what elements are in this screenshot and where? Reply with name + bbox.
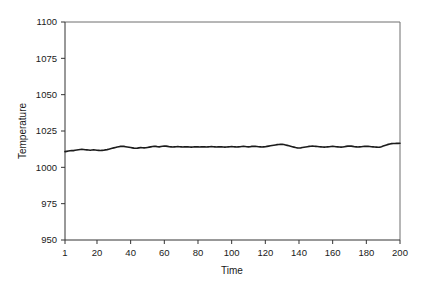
x-tick-label: 80 [193, 247, 204, 258]
y-axis-title: Temperature [17, 102, 28, 159]
y-axis-tick-labels: 95097510001025105010751100 [36, 16, 57, 245]
y-tick-label: 1100 [37, 16, 57, 27]
y-tick-label: 975 [41, 198, 57, 209]
x-tick-label: 200 [392, 247, 408, 258]
x-tick-label: 160 [325, 247, 341, 258]
x-tick-label: 40 [125, 247, 136, 258]
x-axis-tick-labels: 120406080100120140160180200 [62, 247, 408, 258]
x-axis-ticks [65, 240, 400, 244]
data-series-temperature [65, 143, 400, 151]
x-axis-title: Time [221, 265, 243, 276]
x-tick-label: 1 [62, 247, 67, 258]
line-chart: 95097510001025105010751100 1204060801001… [0, 0, 422, 290]
x-tick-label: 140 [291, 247, 307, 258]
x-tick-label: 60 [159, 247, 170, 258]
y-tick-label: 1050 [36, 89, 57, 100]
x-tick-label: 180 [358, 247, 374, 258]
y-tick-label: 1075 [36, 53, 57, 64]
x-tick-label: 120 [257, 247, 273, 258]
y-axis-ticks [61, 22, 65, 240]
x-tick-label: 100 [224, 247, 240, 258]
x-tick-label: 20 [92, 247, 103, 258]
y-tick-label: 1025 [36, 125, 57, 136]
y-tick-label: 1000 [36, 162, 57, 173]
chart-figure: 95097510001025105010751100 1204060801001… [0, 0, 422, 290]
y-tick-label: 950 [41, 234, 57, 245]
